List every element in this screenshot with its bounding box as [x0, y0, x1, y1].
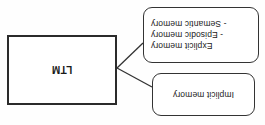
ltm-label: LTM — [52, 65, 73, 76]
implicit-memory-label: Implicit memory — [173, 89, 234, 100]
connector-explicit-to-ltm — [117, 43, 143, 68]
connector-implicit-to-ltm — [117, 68, 152, 87]
episodic-memory-label: - Episodic memory — [144, 30, 258, 41]
diagram-canvas: Implicit memory Explicit memory - Episod… — [0, 0, 265, 125]
node-ltm[interactable]: LTM — [7, 35, 117, 105]
node-implicit-memory[interactable]: Implicit memory — [152, 73, 255, 116]
semantic-memory-label: - Semantic memory — [144, 19, 258, 30]
explicit-memory-label: Explicit memory — [144, 41, 258, 52]
memory-diagram: Implicit memory Explicit memory - Episod… — [0, 0, 265, 125]
node-explicit-memory[interactable]: Explicit memory - Episodic memory - Sema… — [143, 7, 259, 63]
